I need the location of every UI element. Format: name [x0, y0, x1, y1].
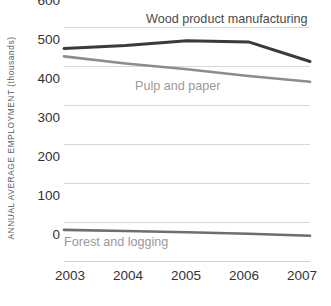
employment-line-chart: ANNUAL AVERAGE EMPLOYMENT (thousands) 60…: [0, 0, 331, 306]
x-axis-tick-labels: 2003 2004 2005 2006 2007: [64, 268, 310, 288]
x-tick-2007: 2007: [287, 268, 317, 283]
y-tick-200: 200: [18, 150, 60, 164]
plot-area: [64, 27, 310, 262]
y-tick-0: 0: [18, 228, 60, 242]
y-tick-400: 400: [18, 72, 60, 86]
x-tick-2003: 2003: [55, 268, 85, 283]
y-axis-tick-labels: 600 500 400 300 200 100 0: [18, 0, 60, 235]
series-label-forest-and-logging: Forest and logging: [64, 235, 168, 249]
y-tick-600: 600: [18, 0, 60, 8]
x-tick-2006: 2006: [229, 268, 259, 283]
series-label-wood-product-manufacturing: Wood product manufacturing: [146, 12, 307, 26]
series-lines: [64, 27, 310, 262]
line-pulp-and-paper: [64, 56, 310, 81]
y-tick-500: 500: [18, 33, 60, 47]
x-tick-2004: 2004: [113, 268, 143, 283]
line-wood-product-manufacturing: [64, 41, 310, 62]
x-tick-2005: 2005: [171, 268, 201, 283]
y-tick-100: 100: [18, 189, 60, 203]
series-label-pulp-and-paper: Pulp and paper: [135, 79, 220, 93]
y-tick-300: 300: [18, 111, 60, 125]
y-axis-title-label: ANNUAL AVERAGE EMPLOYMENT (thousands): [6, 36, 16, 239]
